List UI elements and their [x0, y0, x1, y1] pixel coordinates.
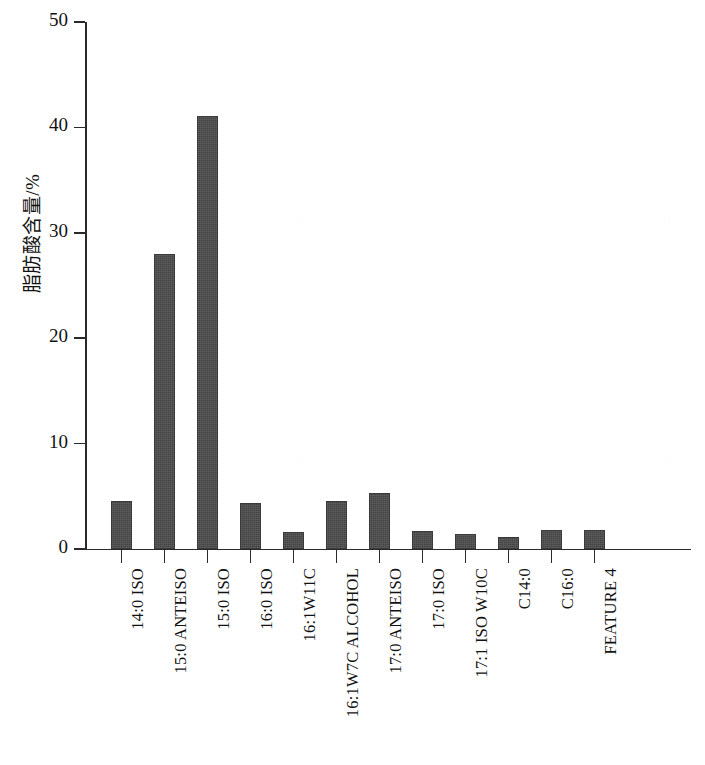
y-axis-tick-label: 20 [22, 325, 68, 347]
bar [111, 501, 132, 549]
x-axis-tick [293, 550, 295, 563]
x-axis-tick [164, 550, 166, 563]
x-axis-tick-label: FEATURE 4 [601, 568, 621, 655]
y-axis-tick-label: 10 [22, 431, 68, 453]
x-axis-tick [508, 550, 510, 563]
x-axis-tick [336, 550, 338, 563]
x-axis-tick-label: C14:0 [515, 568, 535, 609]
x-axis-tick [250, 550, 252, 563]
bar [412, 531, 433, 549]
bar [283, 532, 304, 549]
bar [455, 534, 476, 549]
x-axis-tick-label: 17:0 ANTEISO [386, 568, 406, 674]
y-axis-tick [74, 548, 85, 550]
x-axis-tick-label: 16:1W7C ALCOHOL [343, 568, 363, 717]
x-axis-tick [121, 550, 123, 563]
bar [326, 501, 347, 549]
x-axis-tick [422, 550, 424, 563]
x-axis-tick-label: 15:0 ISO [214, 568, 234, 630]
x-axis-tick-label: 16:1W11C [300, 568, 320, 641]
x-axis-tick [551, 550, 553, 563]
y-axis-tick [74, 232, 85, 234]
x-axis-tick-label: C16:0 [558, 568, 578, 609]
y-axis-tick [74, 21, 85, 23]
y-axis-tick-label: 0 [22, 536, 68, 558]
x-axis-tick [594, 550, 596, 563]
bar [197, 116, 218, 549]
y-axis-tick-label: 30 [22, 220, 68, 242]
x-axis-tick-label: 15:0 ANTEISO [171, 568, 191, 674]
x-axis-tick [379, 550, 381, 563]
x-axis-tick-label: 17:0 ISO [429, 568, 449, 630]
fatty-acid-composition-bar-chart: 脂肪酸含量/% 01020304050 14:0 ISO15:0 ANTEISO… [0, 0, 705, 765]
x-axis-tick [465, 550, 467, 563]
bar [240, 503, 261, 549]
x-axis-tick-label: 16:0 ISO [257, 568, 277, 630]
bar [498, 537, 519, 549]
y-axis-tick [74, 127, 85, 129]
bar [541, 530, 562, 549]
x-axis-tick-label: 14:0 ISO [128, 568, 148, 630]
y-axis-tick [74, 337, 85, 339]
bar [584, 530, 605, 549]
y-axis-tick-label: 40 [22, 114, 68, 136]
x-axis-tick [207, 550, 209, 563]
y-axis-tick [74, 443, 85, 445]
y-axis-line [85, 22, 87, 550]
bar [369, 493, 390, 549]
y-axis-tick-label: 50 [22, 9, 68, 31]
bar [154, 254, 175, 549]
x-axis-tick-label: 17:1 ISO W10C [472, 568, 492, 678]
